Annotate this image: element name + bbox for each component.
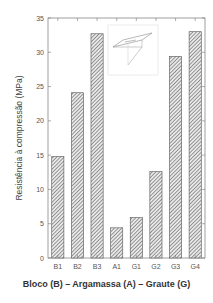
y-tick-label: 10 xyxy=(36,186,44,193)
bar-G4 xyxy=(189,32,201,258)
x-tick-label: G3 xyxy=(171,263,180,270)
x-tick-label: G2 xyxy=(151,263,160,270)
y-tick-label: 15 xyxy=(36,152,44,159)
bar-G1 xyxy=(130,218,142,258)
specimen-inset-diagram xyxy=(108,25,158,75)
x-axis-title: Bloco (B) – Argamassa (A) – Graute (G) xyxy=(0,279,213,289)
y-tick-label: 0 xyxy=(40,255,44,262)
y-axis-title: Resistência à compressão (MPa) xyxy=(14,75,24,200)
y-tick-label: 35 xyxy=(36,15,44,22)
bar-chart: 05101520253035B1B2B3A1G1G2G3G4 Resistênc… xyxy=(0,0,213,303)
y-tick-label: 5 xyxy=(40,220,44,227)
x-tick-label: B3 xyxy=(93,263,102,270)
bar-G2 xyxy=(150,172,162,258)
y-tick-label: 20 xyxy=(36,117,44,124)
bar-A1 xyxy=(111,228,123,258)
bar-B2 xyxy=(71,93,83,258)
x-tick-label: G1 xyxy=(132,263,141,270)
bar-B3 xyxy=(91,34,103,258)
x-tick-label: A1 xyxy=(112,263,121,270)
y-tick-label: 25 xyxy=(36,83,44,90)
bar-G3 xyxy=(169,56,181,258)
bar-B1 xyxy=(52,157,64,258)
x-tick-label: B2 xyxy=(73,263,82,270)
y-tick-label: 30 xyxy=(36,49,44,56)
x-tick-label: G4 xyxy=(191,263,200,270)
x-tick-label: B1 xyxy=(54,263,63,270)
